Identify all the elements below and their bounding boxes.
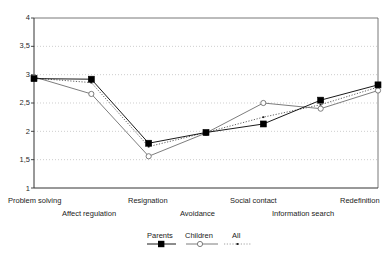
line-chart: 4 3,5 3 2,5 2 1,5 1 Problem solving Affe… xyxy=(0,0,391,260)
y-tick-4: 4 xyxy=(8,14,30,22)
series-line-all xyxy=(34,78,378,147)
legend-marker-all xyxy=(237,243,239,245)
x-label-information-search: Information search xyxy=(272,209,334,218)
plot-area xyxy=(0,0,391,260)
data-point-parents xyxy=(88,76,94,82)
y-tick-3-5: 3,5 xyxy=(8,42,30,50)
legend-marker-parents xyxy=(158,241,164,247)
x-label-social-contact: Social contact xyxy=(230,196,277,205)
y-tick-1: 1 xyxy=(8,185,30,193)
y-tick-3: 3 xyxy=(8,71,30,79)
series-line-children xyxy=(34,77,378,156)
data-point-parents xyxy=(260,121,266,127)
legend-label-parents: Parents xyxy=(147,231,173,240)
legend-label-children: Children xyxy=(185,231,213,240)
x-label-problem-solving: Problem solving xyxy=(8,196,61,205)
data-point-children xyxy=(318,106,323,111)
x-label-resignation: Resignation xyxy=(128,196,168,205)
y-tick-1-5: 1,5 xyxy=(8,156,30,164)
x-label-affect-regulation: Affect regulation xyxy=(62,209,116,218)
y-tick-2: 2 xyxy=(8,128,30,136)
legend-marker-children xyxy=(197,241,202,246)
data-point-all xyxy=(320,104,322,106)
data-point-parents xyxy=(318,97,324,103)
data-point-children xyxy=(146,154,151,159)
data-point-children xyxy=(261,100,266,105)
data-point-parents xyxy=(146,140,152,146)
data-point-children xyxy=(375,88,380,93)
data-point-parents xyxy=(31,76,37,82)
x-label-avoidance: Avoidance xyxy=(180,209,215,218)
legend-label-all: All xyxy=(232,231,240,240)
data-point-all xyxy=(262,116,264,118)
data-point-parents xyxy=(203,129,209,135)
data-point-parents xyxy=(375,82,381,88)
data-point-children xyxy=(89,91,94,96)
y-tick-2-5: 2,5 xyxy=(8,99,30,107)
x-label-redefinition: Redefinition xyxy=(340,196,380,205)
